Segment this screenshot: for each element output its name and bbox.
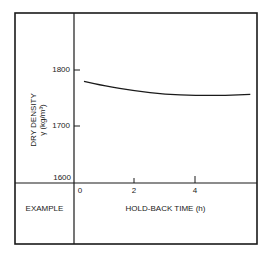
xtick-label-4: 4 — [187, 187, 203, 195]
row-label-example: EXAMPLE — [15, 204, 74, 213]
ytick-label-1800: 1800 — [40, 66, 70, 74]
y-axis-label: DRY DENSITY γ (kg/m³) — [29, 93, 47, 147]
chart-figure: 1800 1700 1600 0 2 4 DRY DENSITY γ (kg/m… — [0, 0, 272, 260]
ytick-label-1600: 1600 — [41, 174, 71, 182]
xtick-label-0: 0 — [72, 187, 88, 195]
density-curve — [84, 81, 250, 95]
y-axis-label-line2: γ (kg/m³) — [38, 93, 47, 147]
y-axis-label-line1: DRY DENSITY — [29, 93, 38, 147]
x-axis-label: HOLD-BACK TIME (h) — [74, 204, 257, 213]
xtick-label-2: 2 — [126, 187, 142, 195]
